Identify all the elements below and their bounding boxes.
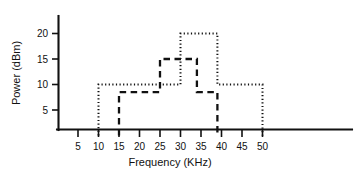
x-tick-label-5: 5 (75, 141, 81, 152)
y-tick-label-10: 10 (37, 79, 49, 90)
x-tick-label-50: 50 (257, 141, 269, 152)
x-tick-label-20: 20 (134, 141, 146, 152)
x-tick-label-40: 40 (216, 141, 228, 152)
power-vs-frequency-chart: 20 15 10 5 5 10 15 20 25 30 35 4 (0, 0, 362, 177)
y-axis-tick-labels: 20 15 10 5 (37, 28, 49, 116)
x-tick-label-15: 15 (113, 141, 125, 152)
x-tick-label-30: 30 (175, 141, 187, 152)
x-tick-label-35: 35 (195, 141, 207, 152)
x-tick-label-25: 25 (154, 141, 166, 152)
x-axis-title: Frequency (KHz) (128, 156, 211, 168)
y-tick-label-15: 15 (37, 54, 49, 65)
series-dashed-spectrum (119, 59, 217, 136)
x-axis-tick-labels: 5 10 15 20 25 30 35 40 45 50 (75, 141, 268, 152)
y-tick-label-5: 5 (42, 105, 48, 116)
y-tick-label-20: 20 (37, 28, 49, 39)
x-tick-label-10: 10 (93, 141, 105, 152)
chart-container: 20 15 10 5 5 10 15 20 25 30 35 4 (0, 0, 362, 177)
x-tick-label-45: 45 (236, 141, 248, 152)
x-axis-ticks (78, 130, 263, 138)
series-dotted-spectrum (99, 34, 263, 136)
y-axis-title: Power (dBm) (10, 41, 22, 105)
